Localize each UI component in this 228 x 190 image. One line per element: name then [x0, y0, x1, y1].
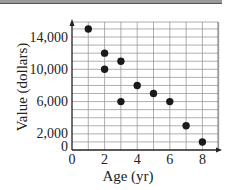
x-tick-label: 8: [199, 152, 206, 167]
data-point: [117, 98, 124, 105]
y-tick-label: 14,000: [30, 30, 69, 45]
data-point: [166, 98, 173, 105]
y-tick-label: 2,000: [37, 126, 69, 141]
x-axis-label: Age (yr): [102, 168, 153, 185]
data-point: [182, 122, 189, 129]
y-tick-labels: 02,0006,00010,00014,000: [30, 30, 69, 154]
data-point: [101, 49, 108, 56]
data-point: [150, 90, 157, 97]
grid-lines: [72, 22, 219, 150]
scatter-plot: 02468 02,0006,00010,00014,000 Age (yr) V…: [0, 0, 228, 190]
x-tick-label: 6: [166, 152, 173, 167]
data-point: [101, 66, 108, 73]
x-tick-label: 2: [101, 152, 108, 167]
x-tick-labels: 02468: [69, 152, 206, 167]
x-tick-label: 0: [69, 152, 76, 167]
data-point: [199, 138, 206, 145]
data-point: [134, 82, 141, 89]
data-point: [85, 25, 92, 32]
y-axis-arrow-icon: [70, 19, 75, 26]
x-tick-label: 4: [134, 152, 141, 167]
y-tick-label: 10,000: [30, 62, 69, 77]
data-point: [117, 58, 124, 65]
y-axis-label: Value (dollars): [14, 43, 31, 132]
y-tick-label: 6,000: [37, 94, 69, 109]
